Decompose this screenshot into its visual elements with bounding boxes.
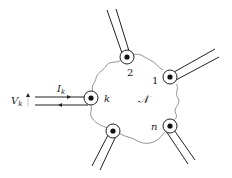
- current-arrow-in-icon: [67, 95, 71, 99]
- port-1-label: 1: [152, 75, 158, 86]
- voltage-arrow-icon: [26, 93, 30, 97]
- port-unlabeled: [92, 124, 120, 170]
- port-2: [107, 9, 134, 64]
- port-2-label: 2: [127, 67, 133, 78]
- port-1: [163, 49, 219, 84]
- port-k-label: k: [104, 93, 110, 104]
- port-n: [163, 119, 195, 164]
- current-label: Ik: [56, 83, 65, 96]
- multiport-network-diagram: 2 1 k Ik Vk n 𝒩: [0, 0, 232, 178]
- port-k: [35, 91, 98, 107]
- voltage-label: Vk: [11, 95, 22, 108]
- network-label: 𝒩: [138, 93, 152, 106]
- port-n-label: n: [151, 121, 157, 132]
- current-arrow-out-icon: [58, 103, 62, 107]
